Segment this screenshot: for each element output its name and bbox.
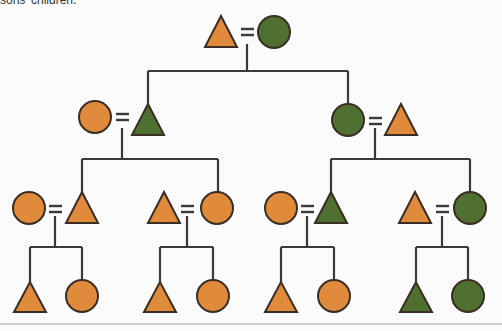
male-green-triangle-icon bbox=[315, 192, 347, 223]
female-orange-circle-icon bbox=[318, 280, 350, 312]
male-green-triangle-icon bbox=[132, 104, 164, 135]
female-orange-circle-icon bbox=[79, 101, 111, 133]
female-green-circle-icon bbox=[332, 104, 364, 136]
siblings-gen4-c bbox=[265, 280, 350, 312]
female-orange-circle-icon bbox=[13, 192, 45, 224]
male-orange-triangle-icon bbox=[399, 192, 431, 223]
male-orange-triangle-icon bbox=[66, 192, 98, 223]
male-orange-triangle-icon bbox=[205, 16, 237, 47]
female-orange-circle-icon bbox=[197, 280, 229, 312]
male-orange-triangle-icon bbox=[265, 282, 297, 312]
female-orange-circle-icon bbox=[201, 192, 233, 224]
female-orange-circle-icon bbox=[66, 280, 98, 312]
siblings-gen4-b bbox=[144, 280, 229, 312]
siblings-gen4-d bbox=[400, 280, 484, 312]
female-green-circle-icon bbox=[452, 280, 484, 312]
male-orange-triangle-icon bbox=[148, 192, 180, 223]
male-orange-triangle-icon bbox=[144, 282, 176, 312]
connector-lines bbox=[30, 44, 470, 282]
female-green-circle-icon bbox=[454, 192, 486, 224]
kinship-diagram bbox=[0, 0, 502, 331]
male-orange-triangle-icon bbox=[14, 282, 46, 312]
couple-gen3-b bbox=[148, 192, 233, 224]
siblings-gen4-a bbox=[14, 280, 98, 312]
female-orange-circle-icon bbox=[265, 192, 297, 224]
male-orange-triangle-icon bbox=[385, 104, 417, 135]
male-green-triangle-icon bbox=[400, 282, 432, 312]
couple-gen1 bbox=[205, 16, 290, 48]
female-green-circle-icon bbox=[258, 16, 290, 48]
